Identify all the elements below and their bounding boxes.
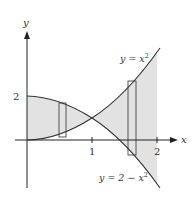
curve-label-x-squared: y = x2 [119,52,149,64]
x-tick-label-2: 2 [154,146,160,157]
x-axis-label: x [181,134,187,145]
curve-label-2-minus-x-squared: y = 2 − x2 [98,171,148,183]
y-axis-label: y [22,17,29,28]
x-axis-arrow-icon [170,137,178,143]
y-axis-arrow-icon [24,31,30,39]
x-tick-label-1: 1 [89,146,95,157]
y-tick-label-2: 2 [13,91,19,102]
area-between-curves-diagram: y x 2 1 2 y = x2 y = 2 − x2 [0,0,193,199]
